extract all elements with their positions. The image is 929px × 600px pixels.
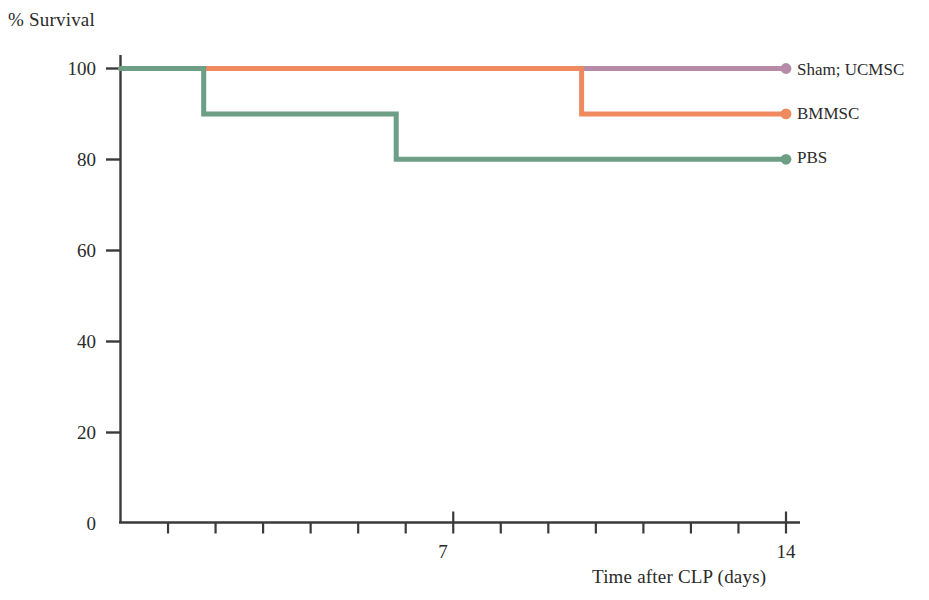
legend: Sham; UCMSC BMMSC PBS: [797, 60, 904, 167]
y-tick-label-80: 80: [77, 149, 96, 170]
x-tick-label-7: 7: [438, 541, 448, 562]
x-tick-label-14: 14: [777, 541, 797, 562]
y-axis-tick-labels: 100 80 60 40 20 0: [68, 58, 97, 534]
series-line-bmmsc: [121, 69, 787, 114]
x-axis-title: Time after CLP (days): [592, 566, 766, 588]
x-axis-tick-labels: 7 14: [438, 541, 796, 562]
y-tick-label-40: 40: [77, 331, 96, 352]
plot-area: 100 80 60 40 20 0 7 14 Sham; UCMSC BMMSC…: [0, 0, 929, 600]
series-endpoint-marker-pbs: [781, 154, 792, 165]
legend-label-sham-ucmsc: Sham; UCMSC: [797, 60, 904, 79]
y-tick-label-0: 0: [87, 513, 97, 534]
y-tick-label-100: 100: [68, 58, 97, 79]
y-tick-label-60: 60: [77, 240, 96, 261]
survival-curve-figure: % Survival 100 80 60 40 20 0 7: [0, 0, 929, 600]
y-axis-ticks: [106, 69, 120, 433]
y-tick-label-20: 20: [77, 422, 96, 443]
series-endpoint-marker-bmmsc: [781, 109, 792, 120]
legend-label-bmmsc: BMMSC: [797, 104, 859, 123]
legend-label-pbs: PBS: [797, 148, 827, 167]
axis-lines: [119, 55, 800, 523]
data-series-group: [121, 63, 792, 165]
series-endpoint-marker-sham-ucmsc: [781, 63, 792, 74]
